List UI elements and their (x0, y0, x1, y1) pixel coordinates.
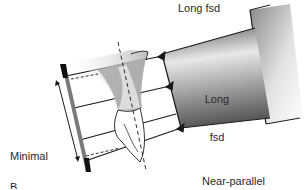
label-long-fsd-tube-line1: Long (202, 93, 232, 106)
label-minimal-line2: magnification (10, 188, 75, 190)
label-near-parallel-beam: Near-parallel X-ray beam (202, 150, 265, 189)
panel-label: B (10, 181, 17, 189)
label-minimal-magnification: Minimal magnification of the image (10, 125, 75, 189)
label-long-fsd-tube-line2: fsd (202, 131, 232, 144)
label-beam-line1: Near-parallel (202, 175, 265, 188)
label-long-fsd-top: Long fsd (178, 2, 220, 15)
label-minimal-line1: Minimal (10, 150, 75, 163)
label-long-fsd-tube: Long fsd (202, 68, 232, 156)
